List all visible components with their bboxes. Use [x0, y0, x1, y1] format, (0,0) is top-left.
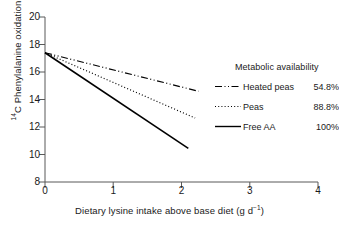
x-tick-label-3: 3	[240, 186, 260, 196]
legend-swatch-solid-icon	[215, 121, 241, 132]
y-axis-title: 14C Phenylalanine oxidation (% of dose)	[12, 0, 23, 121]
x-axis-title-text-end: )	[261, 205, 264, 216]
legend-value-heated-peas: 54.8%	[313, 82, 339, 92]
legend-label-heated-peas: Heated peas	[241, 82, 313, 92]
x-tick-label-4: 4	[308, 186, 328, 196]
legend-label-peas: Peas	[241, 102, 313, 112]
x-tick-label-2: 2	[172, 186, 192, 196]
legend-item-free-aa[interactable]: Free AA 100%	[215, 121, 339, 132]
x-tick-label-0: 0	[35, 186, 55, 196]
legend-label-free-aa: Free AA	[241, 122, 316, 132]
x-axis-title-superscript: −1	[253, 204, 261, 211]
y-axis-title-superscript: 14	[10, 113, 17, 120]
legend-item-peas[interactable]: Peas 88.8%	[215, 101, 339, 112]
x-axis-title-text: Dietary lysine intake above base diet (g…	[75, 205, 253, 216]
legend-value-free-aa: 100%	[316, 122, 339, 132]
legend-value-peas: 88.8%	[313, 102, 339, 112]
x-axis-title: Dietary lysine intake above base diet (g…	[0, 205, 339, 216]
legend-title: Metabolic availability	[235, 62, 339, 72]
chart-figure: 20 18 16 14 12 10 8 0 1 2 3 4 14C Phenyl…	[0, 0, 339, 229]
legend: Metabolic availability Heated peas 54.8%…	[215, 62, 339, 132]
y-axis-title-text: C Phenylalanine oxidation (% of dose)	[12, 0, 23, 113]
x-tick-label-1: 1	[103, 186, 123, 196]
legend-item-heated-peas[interactable]: Heated peas 54.8%	[215, 81, 339, 92]
legend-swatch-dash-dot-icon	[215, 81, 241, 92]
legend-swatch-dotted-icon	[215, 101, 241, 112]
